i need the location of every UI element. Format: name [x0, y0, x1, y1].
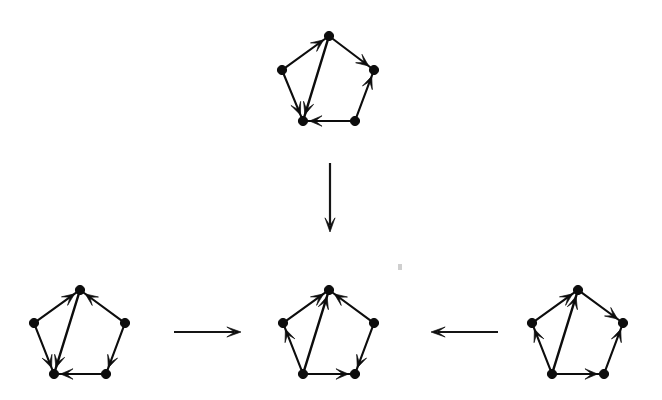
- graph-vertex-bottom-left: [49, 369, 58, 378]
- top-pentagon: [277, 31, 378, 126]
- graph-vertex-left: [277, 65, 286, 74]
- graph-vertex-top: [324, 31, 333, 40]
- graph-vertex-bottom-right: [350, 116, 359, 125]
- bottom-right-pentagon: [527, 285, 627, 379]
- graph-vertex-bottom-right: [350, 369, 359, 378]
- graphs-layer: [29, 31, 627, 379]
- connector-arrow-down: [325, 163, 335, 232]
- graph-vertex-bottom-left: [298, 116, 307, 125]
- connector-arrow-right: [174, 327, 241, 337]
- bottom-middle-pentagon: [278, 285, 378, 379]
- graph-vertex-top: [324, 285, 333, 294]
- graph-vertex-bottom-right: [599, 369, 608, 378]
- graph-vertex-bottom-left: [547, 369, 556, 378]
- artifacts-layer: [398, 264, 402, 270]
- diagram-canvas: [0, 0, 662, 400]
- graph-vertex-left: [29, 318, 38, 327]
- graph-vertex-left: [527, 318, 536, 327]
- scan-speck: [398, 264, 402, 270]
- connectors-layer: [174, 163, 498, 337]
- graph-vertex-left: [278, 318, 287, 327]
- graph-vertex-right: [618, 318, 627, 327]
- graph-vertex-bottom-right: [101, 369, 110, 378]
- graph-vertex-right: [369, 318, 378, 327]
- diagram-root: Directed pentagon graph transformation: [0, 0, 662, 400]
- connector-arrow-left: [431, 327, 498, 337]
- graph-vertex-top: [573, 285, 582, 294]
- bottom-left-pentagon: [29, 285, 129, 379]
- graph-vertex-bottom-left: [298, 369, 307, 378]
- graph-vertex-top: [75, 285, 84, 294]
- graph-vertex-right: [120, 318, 129, 327]
- graph-vertex-right: [369, 65, 378, 74]
